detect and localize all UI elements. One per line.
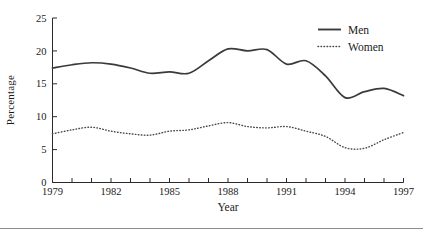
x-tick-label: 1994 bbox=[335, 186, 357, 197]
y-tick-label: 5 bbox=[41, 144, 46, 155]
y-tick-label: 20 bbox=[36, 46, 47, 57]
x-tick-label: 1982 bbox=[101, 186, 122, 197]
x-tick-label: 1988 bbox=[218, 186, 239, 197]
legend-label-women: Women bbox=[348, 41, 384, 53]
y-tick-label: 25 bbox=[36, 13, 47, 24]
x-tick-label: 1991 bbox=[276, 186, 297, 197]
line-chart-svg: 0510152025 1979198219851988199119941997 … bbox=[0, 0, 423, 231]
chart-figure: 0510152025 1979198219851988199119941997 … bbox=[0, 0, 423, 231]
x-axis-tick-labels: 1979198219851988199119941997 bbox=[42, 186, 414, 197]
x-tick-label: 1979 bbox=[42, 186, 63, 197]
legend: Men Women bbox=[318, 24, 384, 53]
y-axis-title: Percentage bbox=[4, 75, 16, 125]
y-axis-ticks bbox=[53, 18, 58, 183]
x-axis-ticks bbox=[53, 178, 404, 183]
y-axis-tick-labels: 0510152025 bbox=[36, 13, 47, 189]
x-axis-title: Year bbox=[217, 201, 238, 213]
footer-divider bbox=[0, 228, 423, 229]
y-tick-label: 15 bbox=[36, 78, 47, 89]
y-tick-label: 10 bbox=[36, 111, 47, 122]
series-line-women bbox=[53, 123, 404, 150]
legend-label-men: Men bbox=[348, 24, 369, 36]
series-line-men bbox=[53, 48, 404, 98]
x-tick-label: 1997 bbox=[393, 186, 414, 197]
x-tick-label: 1985 bbox=[159, 186, 180, 197]
